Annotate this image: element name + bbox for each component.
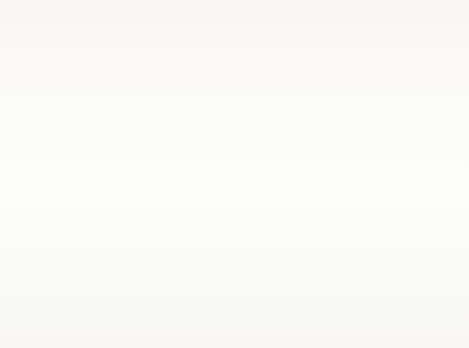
chart-legend: West Prussia (left axis) East Prussia (r… xyxy=(47,312,423,339)
left-ticklabel-0: 1.18 xyxy=(24,18,36,39)
right-ticklabel-2: .85 xyxy=(432,143,444,158)
legend-label-west-prussia: West Prussia (left axis) xyxy=(112,319,224,331)
x-axis-ticks xyxy=(51,278,407,284)
x-axis-ticklabels: 1870 1880 1890 1900 1910 xyxy=(40,285,419,297)
left-ticklabel-2: 1.14 xyxy=(24,181,36,202)
x-ticklabel-2: 1890 xyxy=(218,285,242,297)
right-ticklabel-4: .84 xyxy=(432,265,444,280)
chart-canvas: 1.18 1.16 1.14 1.12 .86 .855 .85 .845 .8… xyxy=(0,0,469,348)
left-ticklabel-1: 1.16 xyxy=(24,99,36,120)
legend-label-east-prussia: East Prussia (right axis) xyxy=(297,319,413,331)
right-axis-ticklabels: .86 .855 .85 .845 .84 xyxy=(432,21,444,280)
plot-axes xyxy=(44,26,426,278)
x-ticklabel-3: 1900 xyxy=(306,285,330,297)
right-ticklabel-0: .86 xyxy=(432,21,444,36)
left-ticklabel-3: 1.12 xyxy=(24,262,36,283)
x-ticklabel-1: 1880 xyxy=(129,285,153,297)
x-ticklabel-4: 1910 xyxy=(395,285,419,297)
right-axis-ticks xyxy=(426,29,432,273)
left-axis-ticklabels: 1.18 1.16 1.14 1.12 xyxy=(24,18,36,282)
right-ticklabel-3: .845 xyxy=(432,201,444,222)
chart-figure: 1.18 1.16 1.14 1.12 .86 .855 .85 .845 .8… xyxy=(0,0,469,348)
right-ticklabel-1: .855 xyxy=(432,79,444,100)
series-line-east-prussia xyxy=(60,31,424,122)
x-ticklabel-0: 1870 xyxy=(40,285,64,297)
left-axis-ticks xyxy=(38,29,44,273)
